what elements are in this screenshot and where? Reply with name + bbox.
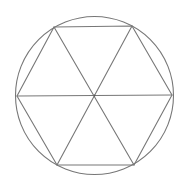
center-point (94, 95, 96, 97)
hexagon-in-circle-diagram (0, 0, 186, 189)
